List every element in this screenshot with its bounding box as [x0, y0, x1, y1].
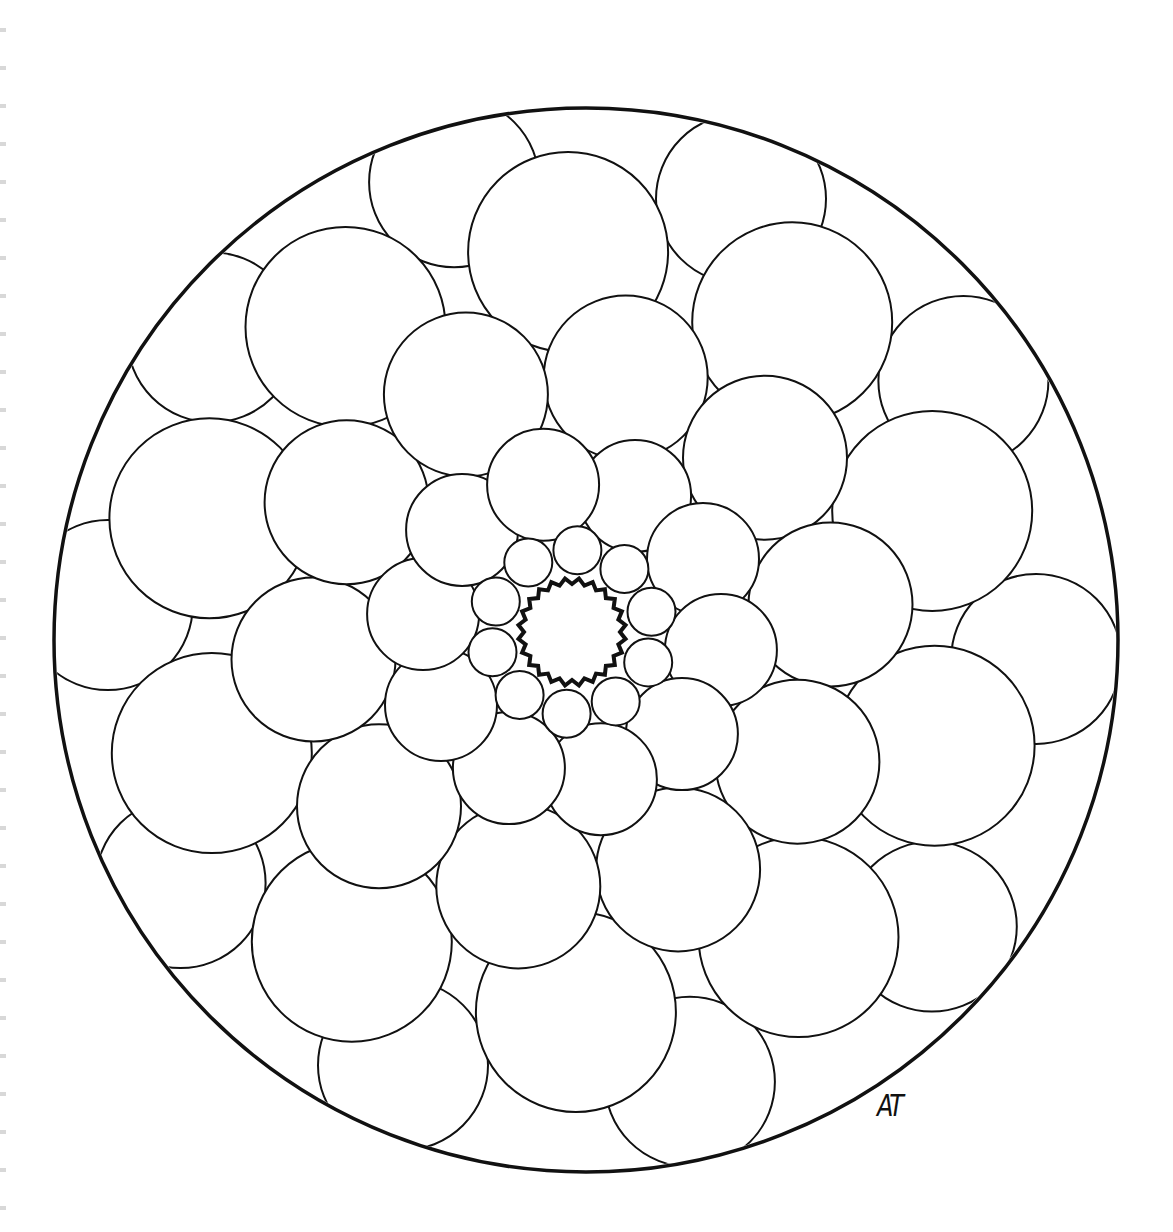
ring-1-petal — [592, 677, 640, 725]
ring-1-petal — [624, 638, 672, 686]
artist-signature: AT — [877, 1088, 902, 1123]
ring-1-petal — [553, 526, 601, 574]
ring-1-petal — [496, 671, 544, 719]
ring-1-petal — [628, 588, 676, 636]
ring-2-petal — [487, 429, 599, 541]
ring-1-petal — [469, 628, 517, 676]
scalloped-center — [519, 579, 626, 686]
ring-1-petal — [472, 578, 520, 626]
mandala-artwork — [0, 0, 1173, 1232]
ring-1-petal — [504, 539, 552, 587]
ring-1-petal — [543, 690, 591, 738]
ring-1-petal — [600, 545, 648, 593]
